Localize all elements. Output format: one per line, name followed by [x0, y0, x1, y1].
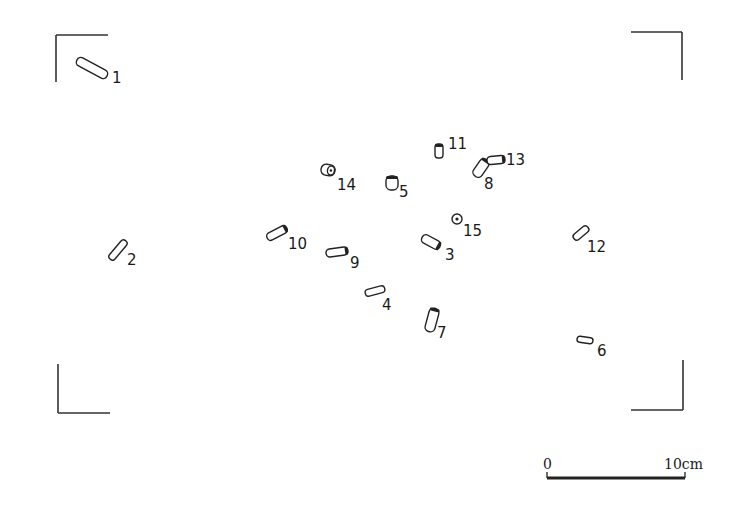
- artifact-label: 12: [587, 238, 606, 256]
- frame-corner-marks: [56, 32, 683, 413]
- cylinder-icon: [108, 239, 129, 262]
- artifact-11: 11: [435, 135, 467, 158]
- artifact-3: 3: [420, 233, 454, 264]
- bead-hole-icon: [455, 217, 458, 220]
- cylinder-icon: [420, 233, 442, 250]
- artifact-7: 7: [424, 307, 446, 342]
- cylinder-icon: [320, 163, 336, 176]
- scale-bar-start-label: 0: [543, 456, 552, 472]
- artifact-label: 13: [506, 151, 525, 169]
- artifact-4: 4: [364, 285, 391, 314]
- artifact-label: 2: [127, 251, 137, 269]
- artifact-label: 4: [382, 296, 392, 314]
- artifact-label: 15: [463, 222, 482, 240]
- cylinder-icon: [326, 247, 349, 258]
- cylinder-icon: [577, 336, 594, 344]
- artifact-label: 10: [288, 235, 307, 253]
- artifact-9: 9: [326, 247, 360, 272]
- artifact-label: 11: [448, 135, 467, 153]
- scale-bar-end-label: 10cm: [664, 456, 703, 472]
- artifact-2: 2: [108, 239, 137, 269]
- artifact-distribution-diagram: 123456789101112131415 0 10cm: [0, 0, 736, 515]
- artifact-12: 12: [572, 225, 606, 256]
- cylinder-icon: [265, 224, 288, 241]
- cylinder-icon: [487, 155, 506, 165]
- artifact-label: 1: [112, 69, 122, 87]
- artifact-6: 6: [577, 336, 607, 360]
- frame-corner-bottom-left: [58, 364, 110, 413]
- frame-corner-bottom-right: [631, 360, 683, 410]
- scale-bar: 0 10cm: [543, 456, 703, 478]
- artifact-13: 13: [487, 151, 525, 169]
- artifact-objects: 123456789101112131415: [75, 56, 607, 360]
- artifact-label: 3: [445, 246, 455, 264]
- cylinder-icon: [75, 56, 109, 80]
- frame-corner-top-right: [631, 32, 682, 80]
- artifact-label: 8: [484, 175, 494, 193]
- artifact-1: 1: [75, 56, 122, 87]
- cylinder-icon: [435, 144, 443, 158]
- artifact-14: 14: [320, 163, 356, 194]
- artifact-5: 5: [386, 176, 409, 201]
- artifact-label: 9: [350, 254, 360, 272]
- artifact-15: 15: [452, 214, 482, 240]
- cylinder-icon: [386, 176, 398, 190]
- artifact-label: 6: [597, 342, 607, 360]
- artifact-label: 14: [337, 176, 356, 194]
- artifact-10: 10: [265, 224, 307, 253]
- artifact-label: 5: [399, 183, 409, 201]
- artifact-label: 7: [437, 324, 447, 342]
